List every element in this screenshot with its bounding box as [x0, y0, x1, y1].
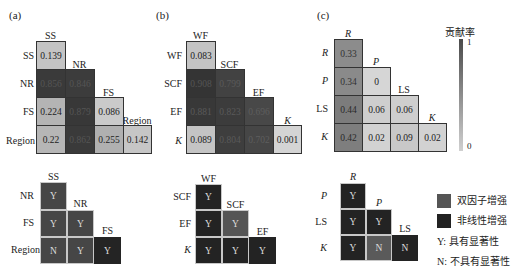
heatmap-cell: 0.224	[36, 97, 66, 126]
heatmap-cell: 0	[362, 67, 391, 96]
significance-cell: Y	[366, 209, 392, 235]
legend-label-nonlinear: 非线性增强	[457, 214, 507, 228]
heatmap-cell: 0.06	[362, 95, 391, 124]
significance-cell: Y	[40, 210, 67, 237]
heatmap-cell: 0.02	[362, 123, 391, 152]
heatmap-cell: 0.02	[418, 123, 447, 152]
significance-cell: Y	[94, 237, 121, 264]
row-label: Region	[3, 244, 40, 256]
col-label: P	[362, 56, 390, 67]
heatmap-cell: 0.34	[334, 67, 363, 96]
heatmap-cell: 0.22	[36, 125, 66, 154]
heatmap-cell: 0.139	[36, 41, 66, 70]
heatmap-cell: 0.799	[215, 69, 245, 98]
col-label: EF	[249, 226, 276, 237]
heatmap-cell: 0.862	[65, 125, 95, 154]
heatmap-cell: 0.846	[65, 69, 95, 98]
significance-cell: Y	[67, 237, 94, 264]
colorbar-min-label: 0	[467, 141, 472, 151]
heatmap-cell: 0.702	[244, 125, 274, 154]
significance-cell: Y	[340, 209, 366, 235]
row-label: SS	[0, 50, 34, 62]
col-label: WF	[195, 173, 222, 184]
row-label: K	[293, 242, 327, 254]
significance-cell: Y	[222, 237, 249, 264]
row-label: K	[157, 244, 191, 256]
heatmap-cell: 0.255	[94, 125, 124, 154]
significance-cell: Y	[40, 182, 67, 210]
row-label: FS	[0, 106, 34, 118]
heatmap-cell: 0.42	[334, 123, 363, 152]
row-label: FS	[0, 217, 34, 229]
row-label: EF	[157, 218, 191, 230]
colorbar-gradient	[459, 39, 463, 151]
heatmap-cell: 0.823	[215, 97, 245, 126]
significance-cell: N	[366, 235, 392, 261]
panel-a-label: (a)	[9, 9, 21, 21]
heatmap-cell: 0.908	[186, 69, 216, 98]
heatmap-cell: 0.33	[334, 39, 363, 68]
row-label: K	[294, 131, 328, 143]
row-label: P	[293, 190, 327, 202]
legend-swatch-bifactor	[437, 194, 451, 208]
col-label: LS	[392, 223, 418, 234]
col-label: WF	[186, 30, 215, 41]
legend-note-y: Y: 具有显著性	[437, 235, 499, 249]
col-label: SS	[36, 30, 65, 41]
row-label: WF	[148, 50, 182, 62]
colorbar-max-label: 1	[467, 37, 472, 47]
heatmap-cell: 0.879	[65, 97, 95, 126]
panel-c-label: (c)	[317, 9, 329, 21]
significance-cell: Y	[195, 237, 222, 264]
col-label: LS	[390, 84, 418, 95]
significance-cell: Y	[222, 210, 249, 237]
heatmap-cell: 0.09	[390, 123, 419, 152]
heatmap-cell: 0.696	[244, 97, 274, 126]
heatmap-cell: 0.06	[390, 95, 419, 124]
col-label: SCF	[222, 199, 249, 210]
heatmap-cell: 0.804	[215, 125, 245, 154]
col-label: SS	[40, 171, 67, 182]
heatmap-cell: 0.881	[186, 97, 216, 126]
row-label: NR	[0, 190, 34, 202]
heatmap-cell: 0.856	[36, 69, 66, 98]
significance-cell: Y	[195, 184, 222, 210]
row-label: K	[148, 135, 182, 147]
panel-b-label: (b)	[156, 9, 169, 21]
legend-swatch-nonlinear	[437, 214, 451, 228]
significance-cell: Y	[195, 210, 222, 237]
significance-cell: N	[40, 237, 67, 264]
row-label: SCF	[157, 191, 191, 203]
row-label: EF	[148, 106, 182, 118]
significance-cell: Y	[340, 235, 366, 261]
row-label: R	[294, 47, 328, 59]
row-label: Region	[0, 135, 35, 147]
col-label: R	[340, 171, 366, 182]
significance-cell: Y	[67, 210, 94, 237]
row-label: LS	[294, 103, 328, 115]
row-label: LS	[293, 216, 327, 228]
col-label: P	[366, 197, 392, 208]
heatmap-cell: 0.086	[94, 97, 124, 126]
heatmap-cell: 0.083	[186, 41, 216, 70]
heatmap-cell: 0.44	[334, 95, 363, 124]
row-label: P	[294, 75, 328, 87]
significance-cell: Y	[249, 237, 276, 264]
row-label: SCF	[148, 78, 182, 90]
row-label: NR	[0, 78, 34, 90]
significance-cell: Y	[340, 183, 366, 209]
heatmap-cell: 0.089	[186, 125, 216, 154]
significance-cell: N	[392, 235, 418, 261]
col-label: R	[334, 28, 362, 39]
col-label: NR	[67, 198, 94, 209]
col-label: FS	[94, 225, 121, 236]
col-label: K	[418, 112, 446, 123]
legend-note-n: N: 不具有显著性	[437, 255, 510, 269]
legend-label-bifactor: 双因子增强	[457, 194, 507, 208]
